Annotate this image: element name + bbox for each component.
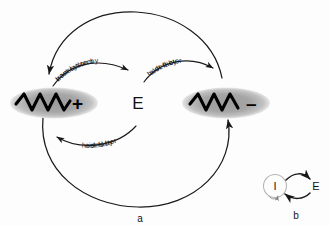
panel-label-b: b (293, 210, 299, 221)
arrow-plus-to-minus-outer (43, 118, 229, 207)
minus-sign-label: – (246, 93, 257, 114)
center-node-E: E (132, 94, 143, 113)
diagram-canvas: + – E translation by host system aided b… (0, 0, 330, 226)
left-species-node: + (10, 88, 98, 119)
inset-panel: I E b (264, 174, 320, 221)
main-panel: + – E translation by host system aided b… (10, 12, 270, 224)
inset-arrow-I-to-E (286, 174, 310, 180)
figure-root: + – E translation by host system aided b… (0, 0, 330, 226)
inset-node-E: E (312, 180, 319, 192)
label-host-factor-right: host factor (146, 57, 183, 79)
right-species-node: – (182, 88, 270, 119)
label-host-factor-left: host factor (82, 137, 118, 150)
panel-label-a: a (137, 213, 143, 224)
label-host-factor-right-text: host factor (146, 57, 183, 79)
plus-sign-label: + (72, 93, 83, 114)
label-host-factor-left-text: host factor (82, 137, 118, 150)
label-host-system: host system (54, 57, 94, 83)
plus-strand-blob (10, 88, 98, 119)
inset-node-I: I (273, 180, 276, 192)
inset-arrow-E-to-I (285, 193, 310, 198)
label-host-system-text: host system (54, 57, 94, 83)
